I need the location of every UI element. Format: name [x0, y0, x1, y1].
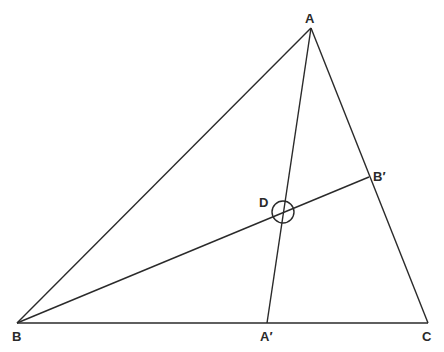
triangle-diagram: A B C A′ B′ D [0, 0, 444, 352]
label-a: A [305, 11, 315, 26]
label-a-prime: A′ [260, 329, 273, 344]
label-d: D [259, 195, 268, 210]
side-ac [311, 28, 428, 323]
side-ab [17, 28, 311, 323]
label-c: C [422, 329, 432, 344]
cevian-a-aprime [267, 28, 311, 323]
label-b-prime: B′ [373, 169, 386, 184]
cevian-b-bprime [17, 177, 369, 323]
label-b: B [12, 329, 21, 344]
